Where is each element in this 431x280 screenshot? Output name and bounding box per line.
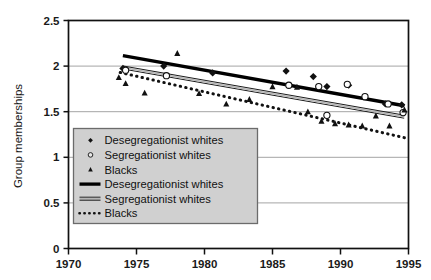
- y-tick-label-0.5: 0.5: [44, 197, 61, 209]
- y-tick-label-2: 2: [53, 60, 59, 72]
- x-tick-label-1995: 1995: [396, 258, 422, 270]
- marker-circle: [344, 81, 350, 87]
- marker-circle: [324, 112, 330, 118]
- marker-circle: [123, 67, 129, 73]
- chart-legend: Desegregationist whitesSegregationist wh…: [74, 129, 258, 224]
- legend-label-2: Blacks: [105, 164, 138, 176]
- chart-container: 197019751980198519901995 00.511.522.5 Gr…: [0, 0, 431, 280]
- marker-circle: [362, 94, 368, 100]
- y-tick-label-1: 1: [53, 151, 60, 163]
- scatter-chart: 197019751980198519901995 00.511.522.5 Gr…: [0, 0, 431, 280]
- legend-label-5: Blacks: [105, 207, 138, 219]
- x-tick-label-1970: 1970: [56, 258, 82, 270]
- marker-circle: [286, 82, 292, 88]
- marker-circle: [385, 101, 391, 107]
- x-tick-label-1980: 1980: [192, 258, 218, 270]
- y-tick-label-2.5: 2.5: [44, 15, 61, 27]
- legend-label-0: Desegregationist whites: [105, 134, 224, 146]
- legend-label-3: Desegregationist whites: [105, 178, 224, 190]
- x-tick-label-1975: 1975: [124, 258, 150, 270]
- marker-circle: [163, 73, 169, 79]
- y-axis-title: Group memberships: [12, 84, 24, 188]
- y-tick-label-1.5: 1.5: [44, 106, 61, 118]
- x-tick-label-1990: 1990: [328, 258, 354, 270]
- x-tick-label-1985: 1985: [260, 258, 286, 270]
- legend-label-4: Segregationist whites: [105, 193, 212, 205]
- y-tick-label-0: 0: [53, 243, 59, 255]
- legend-label-1: Segregationist whites: [105, 149, 212, 161]
- legend-marker-open-circle: [88, 153, 93, 158]
- marker-circle: [316, 84, 322, 90]
